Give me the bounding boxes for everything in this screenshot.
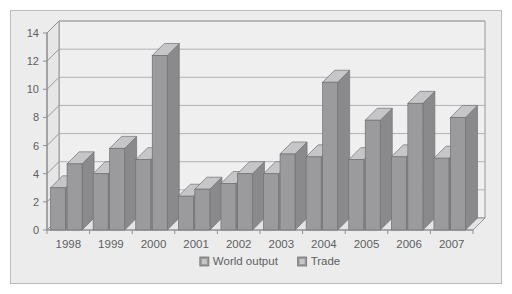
bar-front-face: [306, 157, 321, 230]
bar-side-face: [295, 142, 307, 230]
bar-front-face: [365, 120, 380, 230]
bar-front-face: [349, 160, 364, 230]
bar-trade-2000: [152, 44, 179, 230]
bar-side-face: [167, 44, 179, 230]
bar-trade-2006: [408, 91, 435, 230]
bar-front-face: [110, 148, 125, 230]
bar-front-face: [136, 160, 151, 230]
bar-side-face: [423, 91, 435, 230]
chart-figure: 0246810121419981999200020012002200320042…: [0, 0, 512, 294]
bar-trade-2001: [195, 177, 222, 230]
y-axis-tick-label: 0: [33, 224, 39, 236]
bar-trade-2005: [365, 108, 392, 230]
y-axis-tick-label: 12: [27, 55, 39, 67]
bar-front-face: [67, 164, 82, 230]
bar-front-face: [280, 154, 295, 230]
x-axis-category-label-2004: 2004: [311, 238, 337, 250]
bar-side-face: [125, 136, 137, 230]
bar-side-face: [380, 108, 392, 230]
x-axis-category-label-2001: 2001: [183, 238, 209, 250]
bar-front-face: [93, 174, 108, 230]
x-axis-category-label-2002: 2002: [226, 238, 252, 250]
bar-chart-plot: 0246810121419981999200020012002200320042…: [0, 0, 512, 294]
bar-side-face: [465, 105, 477, 230]
y-axis-tick-label: 8: [33, 111, 39, 123]
bar-front-face: [323, 82, 338, 230]
bar-front-face: [391, 157, 406, 230]
x-axis-category-label-1998: 1998: [56, 238, 82, 250]
bar-front-face: [195, 189, 210, 230]
legend: World outputTrade: [200, 255, 340, 267]
y-axis-tick-label: 2: [33, 196, 39, 208]
y-axis-tick-label: 10: [27, 83, 39, 95]
legend-swatch-inner-trade: [300, 259, 305, 264]
bar-trade-2003: [280, 142, 307, 230]
bar-front-face: [408, 103, 423, 230]
bar-front-face: [221, 184, 236, 230]
x-axis-category-label-2005: 2005: [354, 238, 380, 250]
bar-front-face: [264, 174, 279, 230]
bar-trade-1999: [110, 136, 137, 230]
y-axis-tick-label: 4: [33, 168, 39, 180]
bar-front-face: [237, 174, 252, 230]
bar-front-face: [152, 56, 167, 230]
bar-front-face: [51, 188, 66, 230]
y-axis-tick-label: 14: [27, 27, 39, 39]
bar-side-face: [338, 70, 350, 230]
y-axis-tick-label: 6: [33, 140, 39, 152]
x-axis-category-label-2003: 2003: [269, 238, 295, 250]
bar-front-face: [434, 158, 449, 230]
x-axis-category-label-1999: 1999: [98, 238, 124, 250]
bar-trade-2007: [450, 105, 477, 230]
legend-label-world-output: World output: [213, 255, 279, 267]
bar-side-face: [82, 152, 94, 230]
bar-trade-1998: [67, 152, 94, 230]
bar-trade-2004: [323, 70, 350, 230]
x-axis-category-label-2007: 2007: [439, 238, 465, 250]
bar-front-face: [450, 117, 465, 230]
x-axis-category-label-2000: 2000: [141, 238, 167, 250]
bar-trade-2002: [237, 162, 264, 230]
legend-swatch-inner-world-output: [202, 259, 207, 264]
bar-front-face: [178, 196, 193, 230]
legend-label-trade: Trade: [311, 255, 341, 267]
x-axis-category-label-2006: 2006: [396, 238, 422, 250]
